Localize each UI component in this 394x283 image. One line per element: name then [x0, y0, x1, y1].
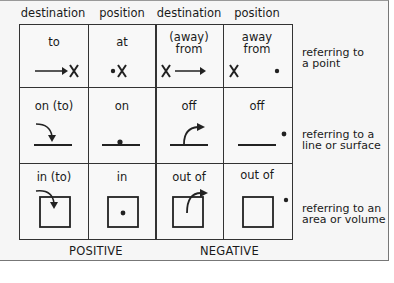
dot-on-line-icon — [100, 120, 150, 150]
side-label-line-surface: referring to a line or surface — [302, 129, 381, 151]
side-label-line: a point — [302, 58, 364, 69]
column-divider-positive-negative — [155, 25, 157, 239]
row-divider — [20, 87, 292, 88]
x-arrow-away-icon — [160, 61, 210, 81]
cell-label-in: in — [88, 171, 156, 183]
cell-label-off-position: off — [223, 100, 291, 112]
cell-label-line: from — [223, 43, 291, 55]
arrow-into-box-icon — [34, 187, 80, 231]
cell-label-to: to — [20, 36, 88, 48]
side-label-line: area or volume — [302, 214, 386, 225]
cell-label-away-from-position: away from — [223, 31, 291, 55]
dot-in-box-icon — [104, 187, 144, 231]
row-divider — [20, 163, 292, 164]
column-header-position-negative: position — [223, 6, 291, 20]
column-header-position-positive: position — [88, 6, 156, 20]
side-label-line: line or surface — [302, 140, 381, 151]
arrow-out-of-box-icon — [169, 185, 217, 231]
cell-label-on-to: on (to) — [20, 100, 88, 112]
column-header-destination-positive: destination — [19, 6, 87, 20]
cell-label-out-of-destination: out of — [155, 171, 223, 183]
cell-label-in-to: in (to) — [20, 171, 88, 183]
cell-label-line: from — [155, 43, 223, 55]
cell-label-off-destination: off — [155, 100, 223, 112]
cell-label-on: on — [88, 100, 156, 112]
dot-off-line-icon — [236, 120, 290, 150]
arrow-off-line-icon — [168, 120, 218, 150]
arrow-onto-line-icon — [32, 120, 82, 150]
dot-out-of-box-icon — [239, 185, 291, 231]
cell-label-at: at — [88, 36, 156, 48]
preposition-table: to at (away) from away from on (to) on o… — [19, 24, 293, 240]
footer-positive: POSITIVE — [69, 244, 123, 258]
side-label-area-volume: referring to an area or volume — [302, 203, 386, 225]
cell-label-away-from-destination: (away) from — [155, 31, 223, 55]
column-divider — [88, 25, 89, 239]
arrow-to-x-icon — [32, 61, 82, 81]
x-dot-away-icon — [228, 61, 288, 81]
dot-x-icon — [108, 61, 138, 81]
side-label-point: referring to a point — [302, 47, 364, 69]
cell-label-out-of-position: out of — [223, 169, 291, 181]
footer-negative: NEGATIVE — [200, 244, 259, 258]
column-divider — [223, 25, 224, 239]
column-header-destination-negative: destination — [155, 6, 223, 20]
